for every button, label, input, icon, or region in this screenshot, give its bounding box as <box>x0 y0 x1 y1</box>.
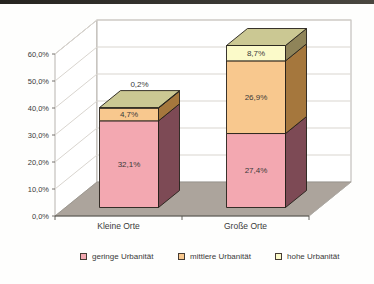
legend-label-geringe: geringe Urbanität <box>92 252 153 261</box>
segment-label: 8,7% <box>247 49 265 58</box>
segment-label: 0,2% <box>130 80 148 89</box>
legend-swatch-mittlere <box>178 253 185 260</box>
y-tick-label: 0,0% <box>32 212 49 221</box>
category-label: Kleine Orte <box>97 221 140 231</box>
y-tick-label: 30,0% <box>28 131 50 140</box>
bar-segment-side <box>159 104 180 208</box>
legend-swatch-geringe <box>80 253 87 260</box>
y-tick-label: 60,0% <box>28 50 50 59</box>
segment-label: 27,4% <box>245 166 268 175</box>
y-tick-label: 20,0% <box>28 158 50 167</box>
segment-label: 32,1% <box>118 160 141 169</box>
legend-swatch-hohe <box>275 253 282 260</box>
legend-item-hohe: hohe Urbanität <box>275 252 339 261</box>
segment-label: 26,9% <box>245 93 268 102</box>
category-label: Große Orte <box>224 221 267 231</box>
legend-item-geringe: geringe Urbanität <box>80 252 153 261</box>
chart-figure: 0,0%10,0%20,0%30,0%40,0%50,0%60,0%Kleine… <box>0 0 374 284</box>
legend-item-mittlere: mittlere Urbanität <box>178 252 251 261</box>
y-tick-label: 50,0% <box>28 77 50 86</box>
legend-label-hohe: hohe Urbanität <box>287 252 339 261</box>
segment-label: 4,7% <box>120 110 138 119</box>
scan-artifact-top-edge <box>0 0 374 4</box>
stacked-bar-chart-3d: 0,0%10,0%20,0%30,0%40,0%50,0%60,0%Kleine… <box>0 0 374 240</box>
y-tick-label: 10,0% <box>28 185 50 194</box>
y-tick-label: 40,0% <box>28 104 50 113</box>
legend-label-mittlere: mittlere Urbanität <box>190 252 251 261</box>
